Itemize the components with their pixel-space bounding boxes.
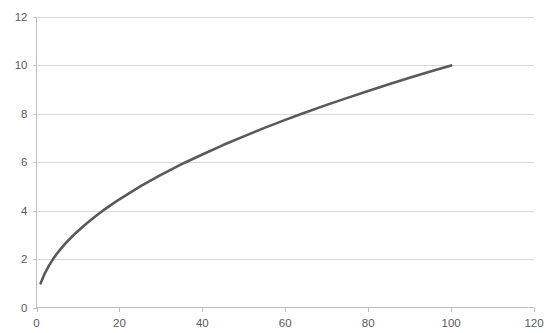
y-axis-label-10: 10 [15, 59, 28, 71]
x-axis-label-20: 20 [113, 317, 126, 329]
y-axis-label-12: 12 [15, 11, 28, 23]
line-chart: 024681012 020406080100120 [0, 0, 549, 333]
x-axis-label-100: 100 [441, 317, 460, 329]
x-axis-label-80: 80 [362, 317, 375, 329]
y-axis-label-4: 4 [21, 205, 28, 217]
chart-container: ——— 024681012 020406080100120 [0, 0, 549, 333]
x-axis-label-40: 40 [196, 317, 209, 329]
x-axis-label-0: 0 [33, 317, 39, 329]
chart-background [0, 0, 549, 333]
x-axis-label-120: 120 [524, 317, 543, 329]
y-axis-label-2: 2 [21, 253, 27, 265]
y-axis-label-6: 6 [21, 156, 27, 168]
y-axis-label-0: 0 [21, 302, 27, 314]
y-axis-label-8: 8 [21, 108, 27, 120]
x-axis-label-60: 60 [279, 317, 292, 329]
